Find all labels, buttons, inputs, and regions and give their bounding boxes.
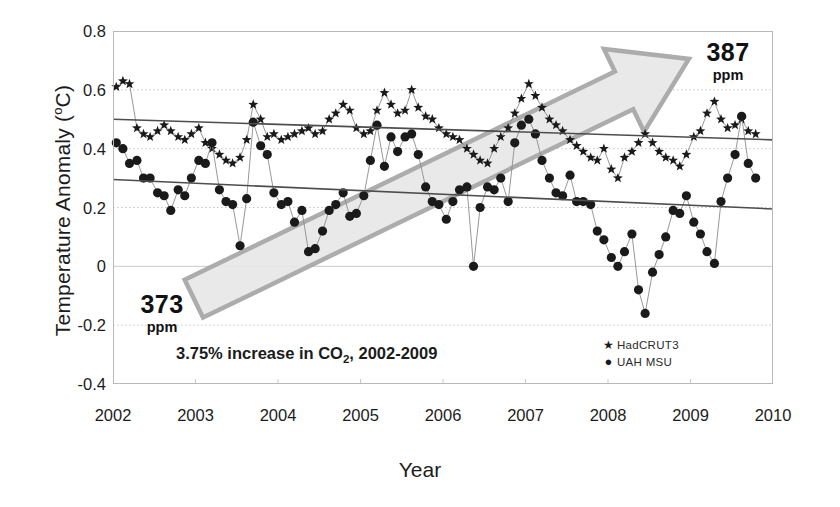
y-tick-0.8: 0.8 — [52, 22, 106, 41]
y-tick-0.2: 0.2 — [52, 198, 106, 217]
x-tick-2009: 2009 — [661, 406, 721, 425]
y-tick-0.6: 0.6 — [52, 80, 106, 99]
x-tick-2002: 2002 — [83, 406, 143, 425]
chart-figure: Temperature Anomaly (oC) 0.80.60.40.20-0… — [0, 0, 840, 507]
legend-label: UAH MSU — [617, 356, 672, 368]
x-tick-2007: 2007 — [496, 406, 556, 425]
x-axis-title: Year — [0, 458, 840, 482]
plot-frame — [113, 31, 773, 384]
y-tick-0: 0 — [52, 257, 106, 276]
x-tick-2004: 2004 — [248, 406, 308, 425]
ppm-start-unit: ppm — [126, 320, 198, 335]
plot-area — [113, 31, 773, 384]
legend-item-uah-msu: ●UAH MSU — [600, 354, 679, 369]
x-tick-2005: 2005 — [331, 406, 391, 425]
circle-marker-icon: ● — [600, 354, 617, 369]
y-tick-0.4: 0.4 — [52, 139, 106, 158]
x-tick-2006: 2006 — [413, 406, 473, 425]
ppm-end-callout: 387 ppm — [688, 40, 768, 83]
y-tick--0.2: -0.2 — [52, 316, 106, 335]
y-tick--0.4: -0.4 — [52, 375, 106, 394]
caption-suffix: , 2002-2009 — [349, 344, 437, 362]
co2-increase-caption: 3.75% increase in CO2, 2002-2009 — [176, 344, 437, 365]
star-marker-icon: ★ — [600, 338, 617, 352]
legend-item-hadcrut3: ★HadCRUT3 — [600, 337, 679, 352]
chart-legend: ★HadCRUT3●UAH MSU — [600, 337, 679, 371]
caption-prefix: 3.75% increase in CO — [176, 344, 343, 362]
x-tick-2010: 2010 — [743, 406, 803, 425]
x-tick-2003: 2003 — [166, 406, 226, 425]
ppm-start-callout: 373 ppm — [126, 292, 198, 335]
x-tick-2008: 2008 — [578, 406, 638, 425]
legend-label: HadCRUT3 — [617, 339, 679, 351]
ppm-end-unit: ppm — [688, 68, 768, 83]
ppm-end-value: 387 — [706, 38, 749, 66]
ppm-start-value: 373 — [140, 290, 183, 318]
y-axis-tick-labels: 0.80.60.40.20-0.2-0.4 — [46, 0, 106, 507]
